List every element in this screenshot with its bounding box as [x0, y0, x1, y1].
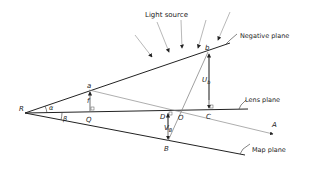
- map-plane-label: Map plane: [252, 146, 286, 154]
- photogrammetry-diagram: Light source Negative plane Lens plane M…: [0, 0, 311, 169]
- point-C: C: [206, 113, 211, 121]
- point-Q: Q: [86, 116, 92, 124]
- point-R: R: [19, 105, 24, 113]
- point-D: D: [160, 113, 166, 121]
- point-B: B: [164, 145, 169, 153]
- negative-plane-line: [25, 43, 230, 113]
- point-O: O: [178, 114, 184, 122]
- lens-plane-line: [25, 109, 248, 113]
- dimension-vb-label: VB: [164, 124, 173, 133]
- focal-length-f: f: [87, 97, 91, 105]
- lens-plane-label: Lens plane: [245, 96, 280, 104]
- negative-plane-label: Negative plane: [240, 32, 289, 40]
- light-source-label: Light source: [145, 11, 188, 19]
- angle-beta: β: [63, 115, 67, 123]
- angle-alpha: α: [49, 104, 54, 112]
- ray-b-to-B: [168, 52, 208, 141]
- point-b: b: [205, 44, 210, 52]
- point-A: A: [271, 121, 277, 129]
- point-a: a: [87, 82, 91, 90]
